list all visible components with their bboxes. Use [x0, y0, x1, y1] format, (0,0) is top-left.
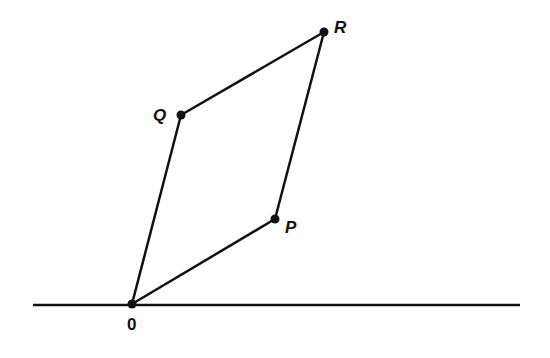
- parallelogram-diagram: 0 P Q R: [0, 0, 550, 358]
- point-P: [271, 215, 280, 224]
- label-O: 0: [127, 315, 136, 334]
- point-O: [128, 300, 137, 309]
- point-Q: [177, 111, 186, 120]
- edge-OP: [132, 219, 275, 304]
- parallelogram-edges: [132, 32, 324, 304]
- point-R: [320, 28, 329, 37]
- vertices: [128, 28, 329, 309]
- label-R: R: [334, 18, 347, 37]
- edge-PR: [275, 32, 324, 219]
- edge-QO: [132, 115, 181, 304]
- edge-RQ: [181, 32, 324, 115]
- label-Q: Q: [153, 106, 166, 125]
- label-P: P: [285, 218, 297, 237]
